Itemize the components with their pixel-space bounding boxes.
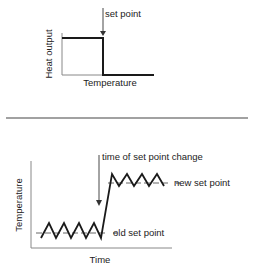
set-point-arrowhead-icon (100, 31, 106, 36)
bottom-ylabel: Temperature (13, 178, 24, 231)
set-point-change-label: time of set point change (102, 151, 203, 162)
figure: set point Heat output Temperature time o… (0, 0, 253, 278)
heat-output-step (62, 38, 154, 75)
top-ylabel: Heat output (43, 29, 54, 78)
old-set-point-label: old set point (113, 227, 165, 238)
bottom-diagram: time of set point change new set point o… (13, 151, 230, 265)
new-set-point-label: new set point (174, 177, 230, 188)
set-point-change-arrowhead-icon (96, 200, 102, 206)
bottom-xlabel: Time (90, 254, 111, 265)
top-diagram: set point Heat output Temperature (43, 8, 154, 88)
set-point-label: set point (105, 8, 141, 19)
top-xlabel: Temperature (83, 77, 136, 88)
